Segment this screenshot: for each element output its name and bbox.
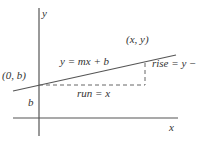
point-xy-label: (x, y): [126, 33, 149, 46]
slope-intercept-diagram: y x y = mx + b (x, y) (0, b) rise = y − …: [0, 0, 199, 141]
point-intercept-label: (0, b): [2, 69, 26, 82]
intercept-height-label: b: [28, 96, 34, 108]
y-axis-label: y: [41, 7, 47, 19]
line-equation-label: y = mx + b: [59, 55, 110, 67]
x-axis-label: x: [168, 121, 174, 133]
rise-label: rise = y − b: [152, 57, 199, 69]
run-label: run = x: [77, 87, 110, 99]
